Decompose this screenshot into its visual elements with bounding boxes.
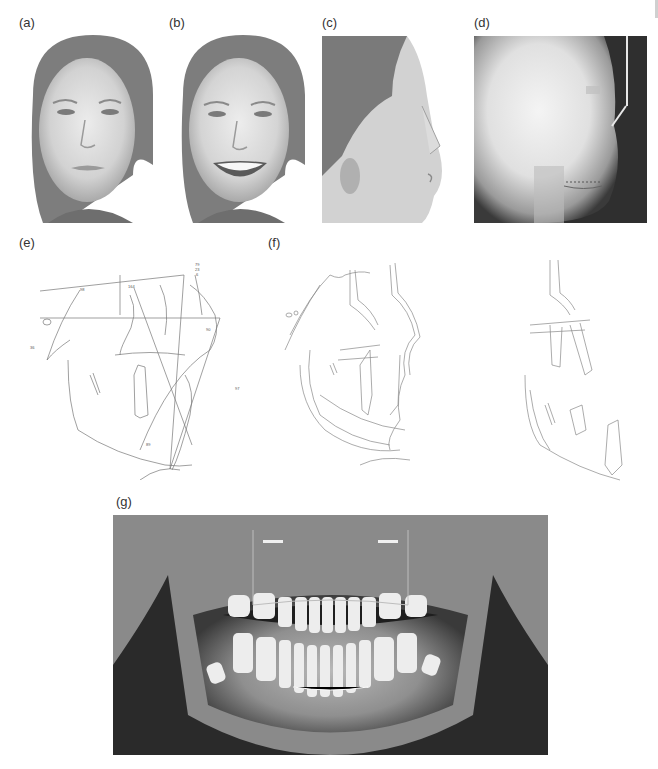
annotation-90: 90 — [206, 327, 210, 332]
annotation-36: 36 — [30, 345, 34, 350]
superimposition-tracing-f-full — [280, 255, 460, 470]
panoramic-radiograph — [113, 515, 548, 755]
panel-label-a: (a) — [19, 15, 35, 30]
annotation-164: 164 — [128, 284, 135, 289]
cephalometric-tracing-e: 79 23 6 98 164 36 90 97 89 — [20, 255, 240, 480]
annotation-89: 89 — [146, 442, 150, 447]
frontal-neutral-photo — [23, 35, 156, 223]
panel-label-c: (c) — [322, 15, 337, 30]
panel-label-g: (g) — [116, 494, 132, 509]
panel-label-b: (b) — [169, 15, 185, 30]
panel-label-f: (f) — [268, 235, 280, 250]
profile-photo — [322, 36, 454, 223]
lateral-cephalogram — [474, 36, 647, 223]
annotation-97: 97 — [235, 386, 239, 391]
frontal-smile-photo — [173, 35, 307, 223]
panel-label-e: (e) — [19, 235, 35, 250]
superimposition-tracing-f-detail — [510, 255, 640, 485]
annotation-98: 98 — [80, 287, 84, 292]
annotation-6: 6 — [196, 272, 198, 277]
panel-label-d: (d) — [474, 15, 490, 30]
